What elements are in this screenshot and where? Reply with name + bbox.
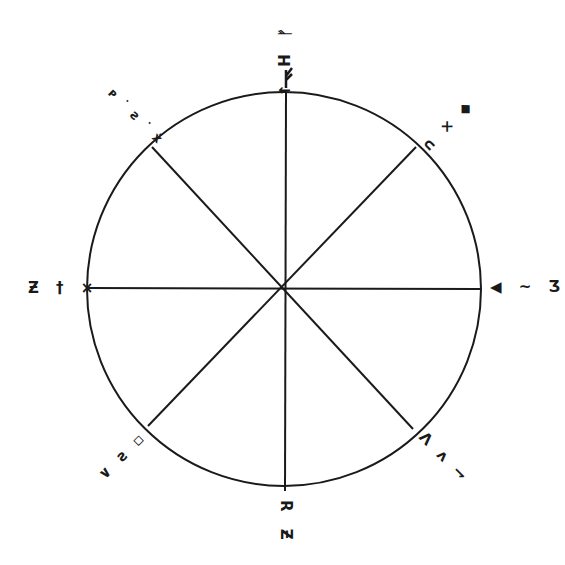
label-east: ◀ ~ Ʒ xyxy=(490,280,565,295)
label-south: R Ƶ xyxy=(278,500,293,546)
label-west: Ƶ † × xyxy=(28,281,99,296)
spoke-northeast-southwest xyxy=(148,147,416,426)
label-north: ↑ H ᚠ xyxy=(278,22,293,97)
